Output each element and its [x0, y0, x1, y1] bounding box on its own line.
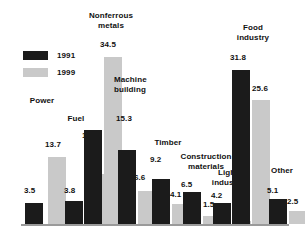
- category-label-power: Power: [20, 96, 64, 106]
- value-label-food-1991: 31.8: [230, 53, 246, 62]
- value-label-timber-1999: 4.1: [170, 190, 181, 199]
- category-label-nonferrous: Nonferrous metals: [76, 11, 146, 31]
- value-label-fuel-1991: 3.8: [64, 186, 75, 195]
- value-label-power-1991: 3.5: [24, 186, 35, 195]
- bar-other-1999: [289, 211, 305, 224]
- category-label-food-line2: industry: [237, 33, 269, 42]
- bar-food-1991: [232, 70, 250, 224]
- category-label-construction-line1: Construction: [181, 152, 232, 161]
- bar-bonferrous-1991: [84, 130, 102, 224]
- value-label-other-1991: 5.1: [267, 186, 278, 195]
- category-label-machine-building: Machine building: [114, 75, 176, 95]
- category-label-food-industry: Food industry: [226, 23, 280, 43]
- bar-other-1991: [269, 199, 287, 224]
- bar-food-1999: [252, 100, 270, 224]
- category-label-timber: Timber: [146, 138, 190, 148]
- value-label-construction-1991: 6.5: [181, 180, 192, 189]
- value-label-food-1999: 25.6: [252, 84, 268, 93]
- value-label-machine-1991: 15.3: [116, 114, 132, 123]
- value-label-other-1999: 2.5: [287, 197, 298, 206]
- bar-machine-1991: [118, 150, 136, 224]
- category-label-fuel: Fuel: [57, 114, 95, 124]
- category-label-other: Other: [262, 166, 302, 176]
- value-label-nonferrous-1999: 34.5: [100, 40, 116, 49]
- category-label-machine-line2: building: [114, 85, 146, 94]
- plot-area: Power 3.5 13.7 Fuel 3.8 10 Nonferrous me…: [0, 0, 308, 241]
- value-label-timber-1991: 9.2: [150, 155, 161, 164]
- category-label-nonferrous-line1: Nonferrous: [89, 11, 133, 20]
- category-label-food-line1: Food: [243, 23, 263, 32]
- axis-baseline: [21, 224, 289, 226]
- value-label-power-1999: 13.7: [45, 140, 61, 149]
- value-label-light-1991: 4.2: [211, 191, 222, 200]
- bar-construction-1991: [183, 192, 201, 224]
- bar-fuel-1991: [65, 201, 83, 224]
- category-label-nonferrous-line2: metals: [98, 21, 124, 30]
- category-label-machine-line1: Machine: [114, 75, 147, 84]
- bar-chart: 1991 1999 Power 3.5 13.7 Fuel 3.8 10 Non…: [0, 0, 308, 241]
- bar-timber-1991: [152, 179, 170, 224]
- bar-power-1991: [25, 203, 43, 224]
- bar-light-1991: [213, 203, 231, 224]
